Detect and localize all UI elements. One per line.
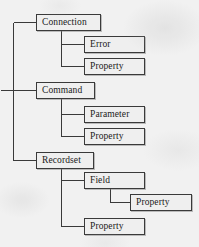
- node-connection-error[interactable]: Error: [84, 36, 145, 53]
- node-label: Property: [136, 198, 170, 208]
- node-label: Command: [42, 86, 82, 96]
- node-label: Property: [90, 132, 124, 142]
- node-command-parameter[interactable]: Parameter: [84, 106, 145, 123]
- node-command-property[interactable]: Property: [84, 128, 145, 145]
- node-label: Parameter: [90, 110, 129, 120]
- node-connection-property[interactable]: Property: [84, 58, 145, 75]
- node-label: Recordset: [42, 156, 81, 166]
- node-connection[interactable]: Connection: [36, 14, 101, 31]
- node-label: Property: [90, 62, 124, 72]
- node-recordset[interactable]: Recordset: [36, 152, 94, 169]
- node-label: Error: [90, 40, 111, 50]
- node-recordset-property[interactable]: Property: [84, 218, 145, 235]
- node-field-property[interactable]: Property: [130, 194, 192, 211]
- node-label: Field: [90, 176, 110, 186]
- node-command[interactable]: Command: [36, 82, 95, 99]
- node-label: Property: [90, 222, 124, 232]
- object-model-diagram: Connection Error Property Command Parame…: [0, 0, 199, 247]
- node-label: Connection: [42, 18, 87, 28]
- node-recordset-field[interactable]: Field: [84, 172, 145, 189]
